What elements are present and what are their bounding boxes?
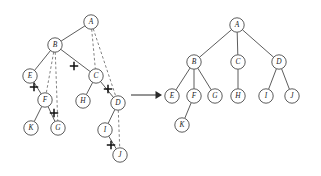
- right-solid-edge-a-d: [242, 30, 273, 57]
- left-node-label-h: H: [79, 96, 86, 105]
- transform-arrow: [131, 91, 162, 99]
- right-node-c: C: [231, 55, 245, 69]
- left-node-label-c: C: [94, 71, 99, 80]
- right-tree-nodes: ABCDEFGHIJK: [165, 18, 299, 132]
- left-node-label-i: I: [103, 125, 107, 134]
- left-node-e: E: [23, 69, 37, 83]
- right-node-label-i: I: [264, 91, 268, 100]
- right-node-label-c: C: [236, 57, 241, 66]
- right-node-label-b: B: [192, 57, 197, 66]
- right-solid-edge-b-e: [176, 68, 190, 90]
- right-node-label-e: E: [169, 91, 175, 100]
- left-solid-edge-d-i: [108, 109, 115, 123]
- right-node-j: J: [285, 89, 299, 103]
- left-node-label-e: E: [27, 71, 33, 80]
- transform-arrow-head-icon: [156, 91, 163, 99]
- left-node-label-g: G: [55, 123, 61, 132]
- left-node-c: C: [89, 69, 103, 83]
- right-node-label-h: H: [234, 91, 241, 100]
- left-dashed-edge-b-f: [46, 52, 53, 93]
- right-node-h: H: [231, 89, 245, 103]
- right-solid-edge-a-c: [237, 32, 238, 55]
- left-solid-edge-b-e: [35, 51, 51, 71]
- right-solid-edge-b-g: [198, 68, 211, 90]
- right-tree-solid-edges: [176, 30, 290, 119]
- tree-transformation-figure: ABCDEFGHIJK ABCDEFGHIJK: [0, 0, 321, 176]
- left-node-k: K: [24, 121, 38, 135]
- left-cut-mark-c-d: [104, 85, 112, 93]
- right-node-g: G: [208, 89, 222, 103]
- left-solid-edge-e-f: [34, 82, 41, 94]
- left-node-g: G: [51, 121, 65, 135]
- left-cut-mark-e-f: [30, 83, 38, 91]
- left-node-d: D: [111, 96, 125, 110]
- left-solid-edge-f-k: [34, 106, 42, 121]
- right-solid-edge-f-k: [185, 103, 191, 119]
- right-solid-edge-a-b: [199, 30, 231, 58]
- left-node-a: A: [84, 15, 98, 29]
- right-node-k: K: [175, 118, 189, 132]
- right-node-label-f: F: [191, 91, 197, 100]
- right-solid-edge-d-i: [269, 69, 277, 90]
- left-node-j: J: [113, 148, 127, 162]
- left-cut-mark-i-j: [107, 141, 115, 149]
- left-node-label-d: D: [114, 98, 121, 107]
- right-node-label-g: G: [212, 91, 218, 100]
- right-node-i: I: [259, 89, 273, 103]
- left-cut-mark-b-c: [70, 62, 78, 70]
- left-solid-edge-c-h: [86, 82, 92, 94]
- left-node-b: B: [48, 38, 62, 52]
- right-node-label-a: A: [234, 20, 240, 29]
- left-solid-edge-i-j: [109, 136, 117, 149]
- left-solid-edge-a-b: [61, 26, 85, 41]
- left-node-i: I: [98, 123, 112, 137]
- right-node-b: B: [187, 55, 201, 69]
- right-node-d: D: [272, 55, 286, 69]
- left-node-label-f: F: [42, 95, 48, 104]
- left-node-label-a: A: [88, 17, 94, 26]
- left-dashed-edge-d-j: [118, 110, 119, 148]
- right-node-label-d: D: [275, 57, 282, 66]
- left-dashed-edge-a-c: [92, 29, 96, 69]
- right-solid-edge-d-j: [282, 69, 290, 90]
- left-dashed-edge-b-g: [55, 52, 57, 121]
- right-node-a: A: [230, 18, 244, 32]
- left-node-label-b: B: [53, 40, 58, 49]
- right-node-f: F: [187, 89, 201, 103]
- left-node-f: F: [38, 93, 52, 107]
- right-node-e: E: [165, 89, 179, 103]
- left-node-h: H: [76, 94, 90, 108]
- left-solid-edge-b-c: [61, 49, 91, 71]
- diagram-canvas: ABCDEFGHIJK ABCDEFGHIJK: [0, 0, 321, 176]
